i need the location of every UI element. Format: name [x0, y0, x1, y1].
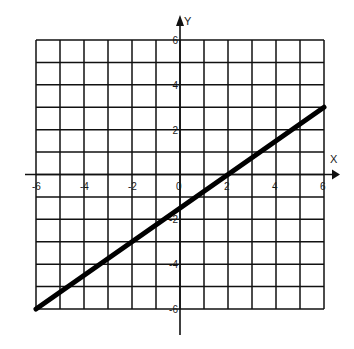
x-tick-label: -6 [32, 181, 41, 192]
coordinate-plane: X Y -6-4-20246 642-2-4-6 [0, 0, 354, 349]
x-tick-label: -4 [80, 181, 89, 192]
x-tick-label: 6 [320, 181, 326, 192]
x-axis-label: X [330, 153, 338, 165]
x-tick-label: 0 [176, 181, 182, 192]
y-tick-label: -6 [169, 304, 178, 315]
x-axis-arrow-icon [332, 170, 340, 180]
y-tick-label: -4 [169, 259, 178, 270]
x-tick-labels: -6-4-20246 [32, 181, 326, 192]
x-tick-label: 4 [272, 181, 278, 192]
y-axis-arrow-icon [176, 15, 184, 26]
x-tick-label: -2 [128, 181, 137, 192]
y-tick-label: 4 [172, 80, 178, 91]
y-axis-label: Y [184, 15, 192, 27]
y-tick-label: 6 [172, 35, 178, 46]
x-tick-label: 2 [224, 181, 230, 192]
y-tick-label: 2 [172, 125, 178, 136]
